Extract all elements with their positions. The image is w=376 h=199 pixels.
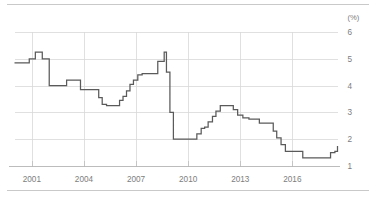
- x-tick-label-2001: 2001: [23, 175, 42, 184]
- chart-svg: 654321 200120042007201020132016 (%): [0, 0, 376, 199]
- x-tick-label-2004: 2004: [75, 175, 94, 184]
- y-tick-label-4: 4: [348, 82, 353, 91]
- y-tick-label-6: 6: [348, 28, 353, 37]
- gridlines-group: [15, 32, 338, 167]
- chart-figure: 654321 200120042007201020132016 (%): [0, 0, 376, 199]
- y-tick-label-5: 5: [348, 55, 353, 64]
- plot-area: 654321 200120042007201020132016 (%): [0, 0, 376, 199]
- x-axis-labels-group: 200120042007201020132016: [23, 175, 302, 184]
- x-tick-label-2007: 2007: [127, 175, 146, 184]
- x-tick-marks-group: [33, 161, 293, 167]
- y-axis-unit-label-group: (%): [348, 13, 360, 22]
- y-axis-labels-group: 654321: [348, 28, 353, 171]
- x-tick-label-2013: 2013: [231, 175, 250, 184]
- data-line-rate: [15, 52, 338, 158]
- y-axis-unit-label: (%): [348, 13, 360, 22]
- data-series-group: [15, 52, 338, 158]
- y-tick-label-1: 1: [348, 162, 353, 171]
- x-tick-label-2010: 2010: [179, 175, 198, 184]
- y-tick-label-2: 2: [348, 135, 353, 144]
- y-tick-label-3: 3: [348, 108, 353, 117]
- x-tick-label-2016: 2016: [283, 175, 302, 184]
